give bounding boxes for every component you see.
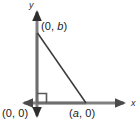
- y-axis-down-arrow-icon: [32, 107, 42, 118]
- vertex-label-origin: (0, 0): [2, 108, 28, 119]
- vertex-label-right-suffix: , 0): [79, 107, 95, 119]
- vertex-label-top-prefix: (0,: [41, 20, 57, 32]
- vertex-label-right: (a, 0): [69, 108, 95, 119]
- right-triangle-group: [37, 33, 86, 103]
- x-axis-right-arrow-icon: [115, 98, 126, 108]
- vertex-label-top-suffix: ): [64, 20, 68, 32]
- x-axis-label: x: [131, 99, 136, 108]
- vertex-label-top: (0, b): [41, 21, 67, 32]
- y-axis-label: y: [29, 1, 34, 10]
- geometry-figure: y x (0, b) (0, 0) (a, 0): [0, 0, 138, 131]
